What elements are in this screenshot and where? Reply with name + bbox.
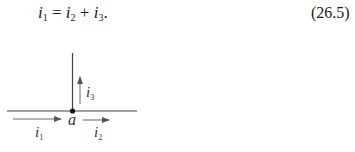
label-i1: i1 bbox=[35, 124, 43, 142]
label-i2: i2 bbox=[94, 124, 102, 142]
label-i3: i3 bbox=[86, 84, 94, 102]
node-label: a bbox=[68, 111, 76, 128]
junction-diagram: a i1 i2 i3 bbox=[0, 0, 355, 152]
